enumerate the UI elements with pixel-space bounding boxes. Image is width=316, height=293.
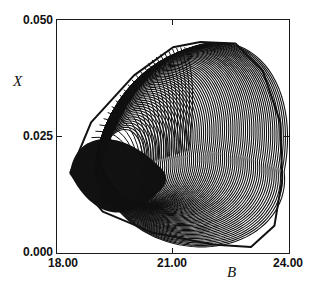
y-tick-label-mid: 0.025 — [1, 129, 53, 143]
x-tick-label-mid: 21.00 — [147, 256, 197, 270]
x-tick-label-min: 18.00 — [38, 256, 88, 270]
y-tick-left-mid — [56, 136, 62, 137]
y-axis-title: X — [13, 73, 22, 90]
x-tick-top-mid — [172, 19, 173, 25]
attractor-trajectory — [56, 19, 290, 254]
y-tick-label-max: 0.050 — [1, 13, 53, 27]
phase-portrait-chart: 0.050 0.025 0.000 18.00 21.00 24.00 X B — [0, 0, 316, 293]
x-tick-bottom-mid — [172, 248, 173, 254]
y-tick-right-mid — [284, 136, 290, 137]
x-axis-title: B — [227, 264, 236, 281]
x-tick-label-max: 24.00 — [263, 256, 313, 270]
